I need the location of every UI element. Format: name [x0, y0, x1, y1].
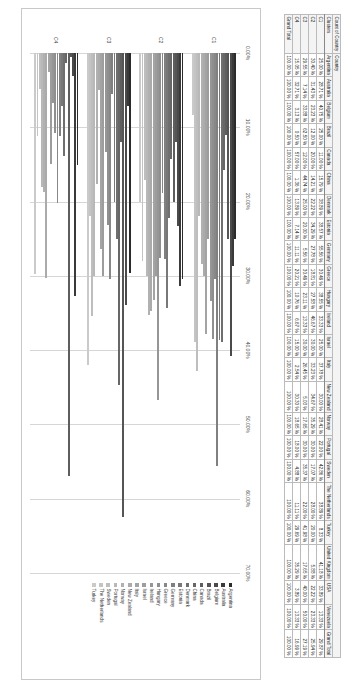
bar-greece-c2[interactable]	[162, 53, 164, 193]
pivot-total-cell[interactable]: 100.00 %	[285, 311, 293, 334]
bar-new-zealand-c2[interactable]	[150, 53, 152, 311]
bar-greece-c1[interactable]	[214, 53, 216, 279]
pivot-cell[interactable]: 5.03 %	[301, 381, 309, 412]
pivot-cell[interactable]: 30.00 %	[301, 335, 309, 358]
bar-estonia-c3[interactable]	[114, 53, 116, 202]
bar-portugal-c2[interactable]	[146, 53, 148, 276]
pivot-cell[interactable]: 30.00 %	[309, 436, 317, 459]
pivot-cell[interactable]: 34.29 %	[309, 217, 317, 240]
pivot-total-cell[interactable]: 100.00 %	[285, 335, 293, 358]
pivot-total-cell[interactable]: 100.00 %	[285, 100, 293, 123]
pivot-cell[interactable]: 13.33 %	[301, 311, 309, 334]
pivot-cell[interactable]: 38.89 %	[317, 194, 325, 217]
bar-israel-c1[interactable]	[207, 53, 209, 239]
pivot-column-header[interactable]: USA	[325, 581, 333, 604]
pivot-cell[interactable]: 7.14 %	[293, 217, 301, 240]
bar-hungary-c3[interactable]	[107, 53, 109, 225]
bar-denmark-c4[interactable]	[63, 53, 65, 156]
legend-item[interactable]: Canada	[198, 583, 205, 673]
legend-item[interactable]: Estonia	[177, 583, 184, 673]
pivot-cell[interactable]: 20.00 %	[309, 521, 317, 544]
pivot-total-cell[interactable]: 100.00 %	[285, 412, 293, 435]
pivot-cell[interactable]: 40.75 %	[317, 100, 325, 123]
pivot-cell[interactable]: 20.00 %	[309, 147, 317, 170]
pivot-grand-total-label[interactable]: Grand Total	[285, 15, 293, 54]
bar-hungary-c4[interactable]	[54, 53, 56, 133]
legend-item[interactable]: Italy	[133, 583, 140, 673]
legend-item[interactable]: Belgium	[212, 583, 219, 673]
pivot-cell[interactable]: 38.57 %	[317, 217, 325, 240]
pivot-cell[interactable]: 17.65 %	[301, 412, 309, 435]
bar-ireland-c3[interactable]	[105, 53, 107, 152]
bar-argentina-c4[interactable]	[77, 53, 79, 165]
bar-the-netherlands-c3[interactable]	[89, 53, 91, 216]
bar-portugal-c1[interactable]	[198, 53, 200, 216]
pivot-total-cell[interactable]: 100.00 %	[285, 241, 293, 264]
bar-sweden-c1[interactable]	[196, 53, 198, 371]
pivot-cell[interactable]: 41.18 %	[317, 544, 325, 581]
bar-hungary-c2[interactable]	[159, 53, 161, 258]
bar-brazil-c1[interactable]	[227, 53, 229, 239]
pivot-cell[interactable]: 27.58 %	[309, 288, 317, 311]
pivot-row-label[interactable]: C3	[301, 15, 309, 54]
bar-belgium-c2[interactable]	[177, 53, 179, 226]
pivot-cell[interactable]: 26.45 %	[301, 358, 309, 381]
pivot-cell[interactable]: 46.67 %	[309, 311, 317, 334]
pivot-total-cell[interactable]: 100.00 %	[285, 581, 293, 604]
legend-item[interactable]: Turkey	[90, 583, 97, 673]
pivot-cell[interactable]: 57.00 %	[293, 147, 301, 170]
bar-norway-c3[interactable]	[96, 53, 98, 184]
pivot-cell[interactable]: 30.00 %	[301, 436, 309, 459]
legend-item[interactable]: Hungary	[155, 583, 162, 673]
pivot-total-cell[interactable]: 100.00 %	[285, 171, 293, 194]
pivot-cell[interactable]: 25.00 %	[317, 124, 325, 147]
bar-turkey-c4[interactable]	[34, 53, 36, 274]
pivot-cell[interactable]: 28.00 %	[309, 483, 317, 521]
pivot-cell[interactable]: 5.56 %	[301, 241, 309, 264]
pivot-cell[interactable]: 33.33 %	[317, 311, 325, 334]
bar-new-zealand-c4[interactable]	[45, 53, 47, 278]
bar-canada-c3[interactable]	[120, 53, 122, 142]
pivot-cell[interactable]: 30.40 %	[309, 53, 317, 77]
pivot-cell[interactable]: 30.30 %	[293, 381, 301, 412]
legend-item[interactable]: Ireland	[148, 583, 155, 673]
pivot-cell[interactable]: 2.54 %	[293, 358, 301, 381]
pivot-row-field[interactable]: Clusters	[325, 15, 333, 54]
pivot-column-header[interactable]: New Zealand	[325, 381, 333, 412]
pivot-column-field[interactable]: Country	[333, 53, 341, 657]
pivot-column-header[interactable]: Ireland	[325, 311, 333, 334]
bar-china-c2[interactable]	[170, 53, 172, 159]
clustered-bar-chart[interactable]: 0.00%10.00%20.00%30.00%40.00%50.00%60.00…	[21, 8, 261, 680]
bar-denmark-c2[interactable]	[168, 53, 170, 218]
pivot-total-cell[interactable]: 100.00 %	[285, 544, 293, 581]
pivot-column-header[interactable]: The Netherlands	[325, 483, 333, 521]
pivot-cell[interactable]: 20.00 %	[301, 217, 309, 240]
pivot-cell[interactable]: 38.89 %	[317, 483, 325, 521]
bar-greece-c4[interactable]	[57, 53, 59, 203]
pivot-total-cell[interactable]: 100.00 %	[285, 147, 293, 170]
pivot-cell[interactable]: 12.00 %	[309, 124, 317, 147]
bar-italy-c4[interactable]	[48, 53, 50, 72]
pivot-total-cell[interactable]: 100.00 %	[285, 459, 293, 482]
bar-canada-c1[interactable]	[225, 53, 227, 135]
pivot-total-cell[interactable]: 100.00 %	[285, 77, 293, 100]
pivot-cell[interactable]: 5.88 %	[309, 544, 317, 581]
pivot-cell[interactable]: 30.49 %	[301, 264, 309, 287]
bar-brazil-c4[interactable]	[70, 53, 72, 57]
pivot-cell[interactable]: 6.67 %	[293, 311, 301, 334]
pivot-cell[interactable]: 17.65 %	[301, 544, 309, 581]
legend-item[interactable]: Greece	[162, 583, 169, 673]
pivot-cell[interactable]: 33.88 %	[301, 100, 309, 123]
pivot-cell[interactable]: 3.89 %	[293, 581, 301, 604]
bar-argentina-c2[interactable]	[182, 53, 184, 279]
bar-norway-c4[interactable]	[43, 53, 45, 192]
pivot-cell[interactable]: 62.50 %	[301, 124, 309, 147]
legend-item[interactable]: Germany	[169, 583, 176, 673]
pivot-column-header[interactable]: Sweden	[325, 459, 333, 482]
bar-the-netherlands-c2[interactable]	[142, 53, 144, 261]
pivot-cell[interactable]: 33.89 %	[317, 581, 325, 604]
pivot-cell[interactable]: 11.11 %	[293, 483, 301, 521]
pivot-row-label[interactable]: C1	[317, 15, 325, 54]
pivot-cell[interactable]: 29.55 %	[301, 53, 309, 77]
legend-item[interactable]: Australia	[220, 583, 227, 673]
